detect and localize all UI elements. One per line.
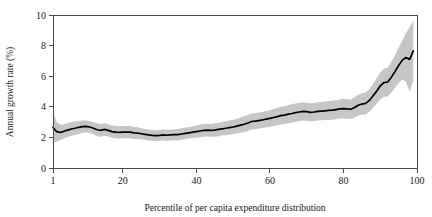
growth-incidence-chart: 0246810 120406080100 Annual growth rate … <box>0 0 432 217</box>
x-tick-label: 100 <box>410 175 425 186</box>
y-axis-ticks: 0246810 <box>36 10 53 174</box>
confidence-band <box>53 21 413 143</box>
y-tick-label: 10 <box>36 10 46 21</box>
x-tick-label: 1 <box>51 175 56 186</box>
x-tick-label: 20 <box>118 175 128 186</box>
y-tick-label: 8 <box>41 40 46 51</box>
x-tick-label: 40 <box>191 175 201 186</box>
y-tick-label: 2 <box>41 132 46 143</box>
x-tick-label: 60 <box>265 175 275 186</box>
x-axis-label: Percentile of per capita expenditure dis… <box>144 203 325 213</box>
y-tick-label: 4 <box>41 101 46 112</box>
x-axis-ticks: 120406080100 <box>51 168 425 186</box>
y-axis-label: Annual growth rate (%) <box>5 47 16 137</box>
confidence-band-group <box>53 21 413 143</box>
plot-border <box>53 15 417 168</box>
y-tick-label: 0 <box>41 163 46 174</box>
y-tick-label: 6 <box>41 71 46 82</box>
x-tick-label: 80 <box>338 175 348 186</box>
chart-canvas: 0246810 120406080100 Annual growth rate … <box>0 0 432 217</box>
axis-frame <box>53 15 417 168</box>
